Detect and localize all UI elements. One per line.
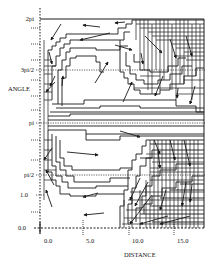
y-tick-label-3pi-2: 3pi/2 — [0, 66, 34, 73]
y-tick-label-2pi: 2pi — [0, 15, 34, 22]
x-tick-label-15: 15.0 — [177, 237, 188, 244]
y-tick-label-pi-2: pi/2 — [0, 171, 34, 178]
phase-portrait-figure — [0, 0, 209, 265]
x-tick-label-10: 10.0 — [132, 237, 143, 244]
x-tick-label-5: 5.0 — [86, 237, 94, 244]
y-tick-label-1: 1.0 — [0, 191, 28, 198]
y-tick-label-0: 0.0 — [0, 224, 26, 231]
x-axis-title: DISTANCE — [124, 251, 156, 258]
x-tick-label-0: 0.0 — [44, 237, 52, 244]
y-tick-label-pi: pi — [0, 119, 34, 126]
cell-boundaries — [48, 20, 204, 228]
y-axis-title: ANGLE — [0, 85, 30, 92]
